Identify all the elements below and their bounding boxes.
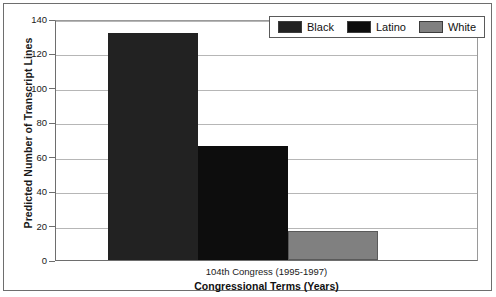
y-axis-tick-label: 80	[36, 117, 47, 129]
bar-white	[288, 231, 378, 260]
legend-item-white[interactable]: White	[419, 21, 476, 33]
legend-swatch-white	[419, 21, 443, 33]
legend: Black Latino White	[269, 16, 485, 38]
y-axis-tick-label: 120	[31, 48, 47, 60]
bar-chart-figure: Predicted Number of Transcript Lines 020…	[0, 0, 496, 297]
y-axis-ticks: 020406080100120140	[0, 0, 55, 262]
legend-item-black[interactable]: Black	[278, 21, 334, 33]
bar-black	[108, 33, 198, 260]
bar-group	[56, 21, 477, 260]
x-axis-title: Congressional Terms (Years)	[55, 280, 478, 292]
y-axis-tick-label: 40	[36, 186, 47, 198]
legend-label-latino: Latino	[376, 21, 406, 33]
bar-latino	[198, 146, 288, 260]
legend-item-latino[interactable]: Latino	[347, 21, 406, 33]
y-axis-tick-label: 100	[31, 83, 47, 95]
y-axis-tick-label: 140	[31, 14, 47, 26]
y-axis-tick-label: 0	[42, 255, 47, 267]
legend-swatch-latino	[347, 21, 371, 33]
legend-swatch-black	[278, 21, 302, 33]
legend-label-white: White	[448, 21, 476, 33]
y-axis-tick-label: 60	[36, 152, 47, 164]
x-axis-tick-label: 104th Congress (1995-1997)	[55, 266, 478, 277]
y-axis-tick-label: 20	[36, 221, 47, 233]
plot-area	[55, 20, 478, 261]
legend-label-black: Black	[307, 21, 334, 33]
